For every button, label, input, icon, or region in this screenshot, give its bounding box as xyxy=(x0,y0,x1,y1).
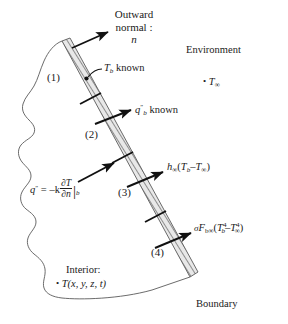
environment-temperature-label: • T∞ xyxy=(203,76,220,89)
body-outline xyxy=(18,41,190,299)
interior-title-label: Interior: xyxy=(66,264,100,276)
evaluation-subscript: b xyxy=(76,189,80,197)
segment-2-tag: (2) xyxy=(85,128,98,141)
heat-transfer-boundary-condition-diagram: Outward normal : n Environment • T∞ (1) … xyxy=(0,0,288,324)
segment-4-condition-label: σFb∞(T4b–T4∞) xyxy=(194,221,243,235)
rad-close-paren: ) xyxy=(240,222,244,233)
prescribed-temperature-point xyxy=(84,76,88,80)
diagram-vector-layer xyxy=(0,0,288,324)
interior-bullet: • xyxy=(56,278,59,288)
segment-2-condition-label: q″b known xyxy=(135,103,178,117)
environment-label: Environment xyxy=(186,44,241,56)
segment-4-tag: (4) xyxy=(151,246,164,259)
environment-temp-subscript: ∞ xyxy=(215,81,220,89)
flux-equals-k: = –k xyxy=(41,184,60,195)
segment-1-condition-label: Tb known xyxy=(104,62,145,75)
outward-normal-label: Outward normal : n xyxy=(92,8,176,46)
fourier-law-expression: q″ = –k ∂T ∂n |b xyxy=(30,178,80,200)
interior-field-label: • T(x, y, z, t) xyxy=(56,278,106,290)
segment-3-condition-label: h∞(Tb–T∞) xyxy=(167,161,210,174)
tb-known-text: known xyxy=(113,62,144,73)
segment-3-tag: (3) xyxy=(118,186,131,199)
outward-normal-symbol: n xyxy=(131,33,137,45)
outward-normal-line2: normal : xyxy=(116,21,153,33)
boundary-label: Boundary xyxy=(196,298,237,310)
outward-normal-line1: Outward xyxy=(115,8,154,20)
fraction-denominator: ∂n xyxy=(60,189,72,200)
qb-known-text: known xyxy=(147,104,178,115)
environment-bullet: • xyxy=(203,76,206,86)
conv-close-paren: ) xyxy=(206,161,210,172)
flux-superscript: ″ xyxy=(35,184,38,192)
segment-1-tag: (1) xyxy=(47,71,60,84)
view-factor-subscript: b∞ xyxy=(205,227,214,235)
interior-temperature-field: T(x, y, z, t) xyxy=(62,278,106,289)
temperature-gradient-fraction: ∂T ∂n xyxy=(60,178,72,200)
